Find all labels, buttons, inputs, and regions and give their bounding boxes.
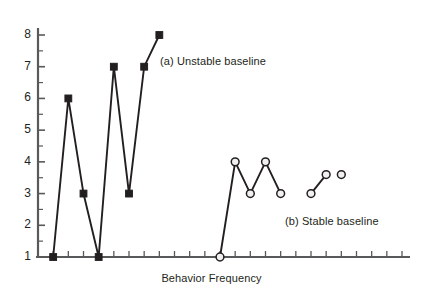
x-axis-title: Behavior Frequency <box>0 272 423 284</box>
data-point-circle <box>277 190 285 198</box>
y-axis <box>38 28 45 258</box>
data-point-circle <box>246 190 254 198</box>
annotation-stable-baseline: (b) Stable baseline <box>285 215 379 227</box>
data-point-square <box>156 32 163 39</box>
y-tick-label: 1 <box>13 249 31 263</box>
data-point-square <box>110 63 117 70</box>
series-line <box>220 162 281 257</box>
y-tick-label: 2 <box>13 217 31 231</box>
data-point-circle <box>231 158 239 166</box>
data-point-square <box>65 95 72 102</box>
y-tick-label: 7 <box>13 59 31 73</box>
data-point-circle <box>216 253 224 261</box>
data-point-square <box>95 254 102 261</box>
y-tick-label: 8 <box>13 27 31 41</box>
y-tick-label: 4 <box>13 154 31 168</box>
annotation-unstable-baseline: (a) Unstable baseline <box>160 55 266 67</box>
data-point-circle <box>337 171 345 179</box>
data-point-square <box>141 63 148 70</box>
y-tick-label: 3 <box>13 186 31 200</box>
data-point-circle <box>322 171 330 179</box>
data-point-square <box>80 190 87 197</box>
chart-plot-area <box>0 0 423 300</box>
data-point-circle <box>262 158 270 166</box>
data-point-square <box>126 190 133 197</box>
y-tick-label: 5 <box>13 122 31 136</box>
data-point-square <box>50 254 57 261</box>
y-tick-label: 6 <box>13 90 31 104</box>
figure-container: 12345678 (a) Unstable baseline (b) Stabl… <box>0 0 423 300</box>
data-point-circle <box>307 190 315 198</box>
